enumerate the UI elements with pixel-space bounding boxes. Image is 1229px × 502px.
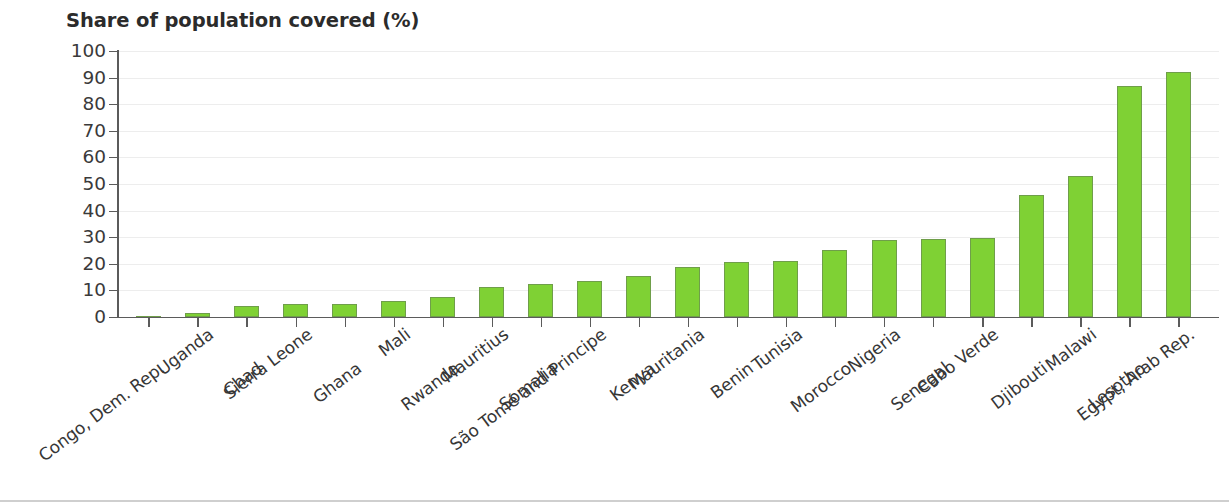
bar bbox=[773, 261, 798, 317]
y-axis-tick bbox=[109, 184, 117, 185]
x-axis-tick-label: Malawi bbox=[1042, 324, 1101, 375]
y-axis-tick bbox=[109, 211, 117, 212]
y-axis-tick-label: 40 bbox=[82, 200, 106, 221]
x-axis-tick bbox=[590, 318, 591, 327]
chart-figure: Share of population covered (%) 01020304… bbox=[0, 0, 1229, 502]
x-axis-tick bbox=[688, 318, 689, 327]
bar bbox=[1166, 72, 1191, 317]
y-axis-tick bbox=[109, 237, 117, 238]
x-axis-tick bbox=[246, 318, 247, 327]
x-axis-tick bbox=[737, 318, 738, 327]
y-axis-tick-label: 90 bbox=[82, 67, 106, 88]
x-axis-tick bbox=[639, 318, 640, 327]
y-axis-tick bbox=[109, 51, 117, 52]
chart-title: Share of population covered (%) bbox=[66, 9, 419, 32]
x-axis-tick-label: São Tomé and Principe bbox=[446, 324, 610, 455]
x-axis-tick bbox=[1080, 318, 1081, 327]
y-axis-tick-label: 80 bbox=[82, 93, 106, 114]
x-axis-tick bbox=[148, 318, 149, 327]
bar bbox=[1117, 86, 1142, 317]
y-axis-tick-label: 20 bbox=[82, 253, 106, 274]
x-axis-tick-label: Uganda bbox=[153, 324, 217, 379]
bar bbox=[430, 297, 455, 317]
y-axis-tick-label: 70 bbox=[82, 120, 106, 141]
y-axis-tick bbox=[109, 264, 117, 265]
bar bbox=[1019, 195, 1044, 317]
x-axis-tick bbox=[884, 318, 885, 327]
y-axis-tick-label: 30 bbox=[82, 226, 106, 247]
y-axis-tick bbox=[109, 157, 117, 158]
bar bbox=[872, 240, 897, 317]
x-axis-tick bbox=[443, 318, 444, 327]
bar bbox=[1068, 176, 1093, 318]
x-axis-tick bbox=[394, 318, 395, 327]
bar bbox=[970, 238, 995, 317]
x-axis-tick-label: Benin bbox=[707, 358, 757, 403]
x-axis-tick bbox=[1129, 318, 1130, 327]
x-axis-tick-label: Mali bbox=[374, 324, 413, 361]
y-axis-tick bbox=[109, 131, 117, 132]
x-axis-tick-label: Nigeria bbox=[844, 324, 904, 376]
y-axis-tick-label: 60 bbox=[82, 146, 106, 167]
x-axis-tick bbox=[786, 318, 787, 327]
x-axis-tick bbox=[541, 318, 542, 327]
bar bbox=[822, 250, 847, 317]
bar bbox=[234, 306, 259, 317]
bar bbox=[921, 239, 946, 317]
bar bbox=[577, 281, 602, 317]
y-axis-tick bbox=[109, 290, 117, 291]
x-axis-tick bbox=[345, 318, 346, 327]
x-axis-tick-label: Morocco bbox=[787, 358, 855, 416]
plot-area bbox=[118, 51, 1219, 317]
x-axis-tick bbox=[835, 318, 836, 327]
y-axis-tick-label: 10 bbox=[82, 279, 106, 300]
bar bbox=[675, 267, 700, 317]
x-axis-tick bbox=[296, 318, 297, 327]
bar bbox=[381, 301, 406, 317]
x-axis-tick-label: Congo, Dem. Rep. bbox=[35, 358, 168, 465]
bar bbox=[528, 284, 553, 317]
bar bbox=[724, 262, 749, 317]
bar bbox=[185, 313, 210, 317]
x-axis-tick-label: Cabo Verde bbox=[913, 324, 1002, 398]
x-axis-tick bbox=[492, 318, 493, 327]
y-axis-tick bbox=[109, 78, 117, 79]
bar bbox=[626, 276, 651, 317]
y-axis-tick-label: 0 bbox=[94, 306, 106, 327]
x-axis-tick bbox=[1178, 318, 1179, 327]
y-axis-tick bbox=[109, 104, 117, 105]
x-axis-tick-label: Mauritania bbox=[624, 324, 708, 394]
bar bbox=[479, 287, 504, 317]
x-axis-tick-label: Ghana bbox=[309, 358, 365, 407]
bar bbox=[136, 316, 161, 317]
y-axis-tick bbox=[109, 317, 117, 318]
x-axis-tick bbox=[933, 318, 934, 327]
x-axis-tick bbox=[1031, 318, 1032, 327]
x-axis-tick-label: Tunisia bbox=[748, 324, 806, 375]
x-axis-tick-label: Djibouti bbox=[987, 358, 1051, 413]
bar bbox=[332, 304, 357, 317]
x-axis-tick-label: Mauritius bbox=[438, 324, 512, 387]
x-axis-tick-label: Sierra Leone bbox=[219, 324, 315, 403]
x-axis-tick bbox=[982, 318, 983, 327]
x-axis-tick bbox=[197, 318, 198, 327]
bar bbox=[283, 304, 308, 317]
y-axis-tick-label: 50 bbox=[82, 173, 106, 194]
y-axis-tick-label: 100 bbox=[71, 40, 106, 61]
